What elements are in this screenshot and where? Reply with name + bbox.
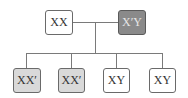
child-box-1: XX′ bbox=[13, 68, 41, 93]
parent-mother-box: XX bbox=[45, 10, 73, 35]
sibling-bar bbox=[26, 53, 163, 54]
child-box-3: XY bbox=[103, 68, 130, 93]
child-box-2: XX′ bbox=[58, 68, 85, 93]
descent-line bbox=[95, 22, 96, 53]
child-box-4: XY bbox=[149, 68, 176, 93]
child-drop-1 bbox=[26, 53, 27, 68]
child-drop-2 bbox=[71, 53, 72, 68]
child-drop-4 bbox=[162, 53, 163, 68]
parent-father-box: X′Y bbox=[118, 10, 146, 35]
child-drop-3 bbox=[116, 53, 117, 68]
